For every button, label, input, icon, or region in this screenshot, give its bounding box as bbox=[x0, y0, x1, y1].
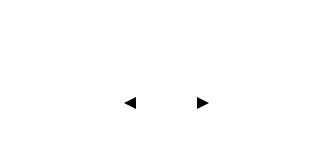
normal-distribution-chart bbox=[0, 0, 329, 164]
background bbox=[0, 0, 329, 164]
